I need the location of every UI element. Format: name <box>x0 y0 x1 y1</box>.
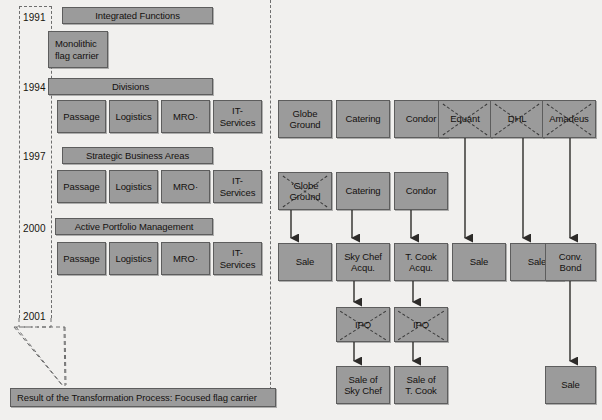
action-conv-bond-amadeus[interactable]: Conv. Bond <box>545 243 596 281</box>
portfolio-condor-1994-label: Condor <box>406 113 437 125</box>
unit-mro-1994[interactable]: MRO· <box>161 100 210 133</box>
action-sale-of-t-cook-label: Sale of T. Cook <box>405 374 437 397</box>
portfolio-globe-ground-1994[interactable]: Globe Ground <box>278 100 332 138</box>
timeline-bracket-left <box>19 6 20 318</box>
portfolio-condor-1997[interactable]: Condor <box>394 172 448 210</box>
unit-passage-1997[interactable]: Passage <box>57 170 106 203</box>
portfolio-catering-1997[interactable]: Catering <box>336 172 390 210</box>
unit-it-services-1997[interactable]: IT- Services <box>213 170 262 203</box>
unit-it-services-2000[interactable]: IT- Services <box>213 242 262 275</box>
stage-header-strategic-business-areas[interactable]: Strategic Business Areas <box>62 147 213 164</box>
result-bar[interactable]: Result of the Transformation Process: Fo… <box>10 388 276 407</box>
unit-mro-1997[interactable]: MRO· <box>161 170 210 203</box>
portfolio-catering-1997-label: Catering <box>345 185 380 197</box>
unit-logistics-2000[interactable]: Logistics <box>109 242 158 275</box>
action-sky-chef-acquisition[interactable]: Sky Chef Acqu. <box>336 243 390 281</box>
era-label-1994: 1994 <box>23 82 46 93</box>
era-label-1997: 1997 <box>23 151 46 162</box>
action-sale-amadeus-final[interactable]: Sale <box>545 366 596 404</box>
unit-passage-2000[interactable]: Passage <box>57 242 106 275</box>
portfolio-dhl-1994[interactable]: DHL <box>490 100 544 138</box>
era-label-2001: 2001 <box>23 311 46 322</box>
portfolio-catering-1994-label: Catering <box>345 113 380 125</box>
stage-header-divisions[interactable]: Divisions <box>48 78 213 95</box>
action-sale-amadeus-final-label: Sale <box>561 379 580 391</box>
portfolio-equant-1994-label: Equant <box>450 113 480 125</box>
action-sale-globe-ground[interactable]: Sale <box>278 243 332 281</box>
action-ipo-sky-chef-label: IPO <box>355 319 371 331</box>
portfolio-globe-ground-1994-label: Globe Ground <box>289 108 320 131</box>
action-ipo-t-cook[interactable]: IPO <box>394 307 448 342</box>
timeline-bracket-top <box>19 6 52 7</box>
era-label-1991: 1991 <box>23 12 46 23</box>
era-label-2000: 2000 <box>23 223 46 234</box>
action-ipo-t-cook-label: IPO <box>413 319 429 331</box>
action-ipo-sky-chef[interactable]: IPO <box>336 307 390 342</box>
action-conv-bond-amadeus-label: Conv. Bond <box>559 251 583 274</box>
stage-header-active-portfolio-management[interactable]: Active Portfolio Management <box>55 218 213 235</box>
portfolio-amadeus-1994[interactable]: Amadeus <box>542 100 596 138</box>
action-sale-of-sky-chef[interactable]: Sale of Sky Chef <box>336 366 390 404</box>
action-sale-dhl-label: Sale <box>528 256 547 268</box>
portfolio-equant-1994[interactable]: Equant <box>438 100 492 138</box>
unit-monolithic-flag-carrier[interactable]: Monolithic flag carrier <box>48 31 108 68</box>
section-divider <box>270 0 271 400</box>
portfolio-globe-ground-1997-label: ‘Globe Ground <box>289 180 320 203</box>
action-sale-globe-ground-label: Sale <box>296 256 315 268</box>
action-t-cook-acquisition-label: T. Cook Acqu. <box>405 251 437 274</box>
unit-logistics-1997[interactable]: Logistics <box>109 170 158 203</box>
portfolio-amadeus-1994-label: Amadeus <box>549 113 588 125</box>
unit-passage-1994[interactable]: Passage <box>57 100 106 133</box>
action-sale-equant[interactable]: Sale <box>452 243 506 281</box>
action-sale-equant-label: Sale <box>470 256 489 268</box>
unit-mro-2000[interactable]: MRO· <box>161 242 210 275</box>
action-sky-chef-acquisition-label: Sky Chef Acqu. <box>344 251 382 274</box>
portfolio-dhl-1994-label: DHL <box>508 113 527 125</box>
action-sale-of-t-cook[interactable]: Sale of T. Cook <box>394 366 448 404</box>
unit-it-services-1994[interactable]: IT- Services <box>213 100 262 133</box>
action-sale-of-sky-chef-label: Sale of Sky Chef <box>344 374 382 397</box>
portfolio-condor-1997-label: Condor <box>406 185 437 197</box>
unit-logistics-1994[interactable]: Logistics <box>109 100 158 133</box>
portfolio-catering-1994[interactable]: Catering <box>336 100 390 138</box>
stage-header-integrated-functions[interactable]: Integrated Functions <box>62 7 213 24</box>
portfolio-globe-ground-1997[interactable]: ‘Globe Ground <box>278 172 332 210</box>
diagram-canvas: 1991 1994 1997 2000 2001 Integrated Func… <box>0 0 602 420</box>
action-t-cook-acquisition[interactable]: T. Cook Acqu. <box>394 243 448 281</box>
